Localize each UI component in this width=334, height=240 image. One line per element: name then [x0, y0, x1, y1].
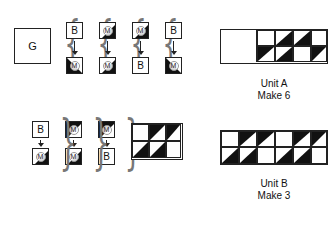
- unit-b-quantity: Make 3: [234, 190, 314, 202]
- unit-a-caption: Unit A Make 6: [234, 78, 314, 102]
- arrow-down-icon: [107, 41, 108, 52]
- bottom-block-cell: [132, 141, 149, 158]
- unit-b-cell: [275, 131, 293, 147]
- fabric-m-tile: M: [132, 22, 149, 39]
- arrow-down-icon: [173, 41, 174, 52]
- brace-icon: }: [93, 111, 110, 171]
- arrow-down-icon: [140, 41, 141, 52]
- bottom-block-cell: [166, 124, 181, 141]
- unit-a-title: Unit A: [234, 78, 314, 90]
- bottom-block: [131, 123, 183, 160]
- unit-a-large-square: [221, 30, 257, 62]
- unit-b-cell: [239, 147, 257, 164]
- unit-b-cell: [221, 131, 239, 147]
- unit-b-block: [220, 130, 328, 165]
- unit-b-cell: [239, 131, 257, 147]
- unit-b-cell: [293, 131, 311, 147]
- unit-a-cell: [257, 46, 275, 62]
- bottom-block-cell: [132, 124, 149, 141]
- fabric-b-tile: B: [32, 121, 49, 138]
- bottom-block-cell: [166, 141, 181, 158]
- fabric-m-tile: M: [165, 57, 182, 74]
- unit-a-block: [220, 29, 328, 64]
- fabric-b-tile: B: [132, 57, 149, 74]
- bottom-block-cell: [149, 124, 166, 141]
- unit-b-cell: [257, 147, 275, 164]
- brace-icon: }: [60, 111, 77, 171]
- fabric-m-tile: M: [32, 148, 49, 165]
- unit-b-cell: [275, 147, 293, 164]
- unit-b-cell: [311, 147, 327, 164]
- fabric-m-tile: M: [99, 22, 116, 39]
- unit-a-quantity: Make 6: [234, 90, 314, 102]
- unit-a-cell: [311, 30, 327, 46]
- unit-b-title: Unit B: [234, 178, 314, 190]
- bottom-block-cell: [149, 141, 166, 158]
- arrow-down-icon: [40, 140, 41, 144]
- fabric-m-tile: M: [99, 57, 116, 74]
- unit-b-cell: [293, 147, 311, 164]
- unit-a-cell: [257, 30, 275, 46]
- large-square-g: G: [14, 28, 51, 64]
- fabric-b-tile: B: [66, 22, 83, 39]
- large-square-label: G: [28, 40, 37, 52]
- unit-b-caption: Unit B Make 3: [234, 178, 314, 202]
- unit-a-cell: [293, 46, 311, 62]
- fabric-m-tile: M: [66, 57, 83, 74]
- fabric-b-tile: B: [165, 22, 182, 39]
- unit-a-cell: [275, 30, 293, 46]
- unit-a-cell: [275, 46, 293, 62]
- unit-a-cell: [293, 30, 311, 46]
- unit-b-cell: [221, 147, 239, 164]
- unit-b-cell: [257, 131, 275, 147]
- unit-a-cell: [311, 46, 327, 62]
- arrow-down-icon: [74, 41, 75, 52]
- unit-b-cell: [311, 131, 327, 147]
